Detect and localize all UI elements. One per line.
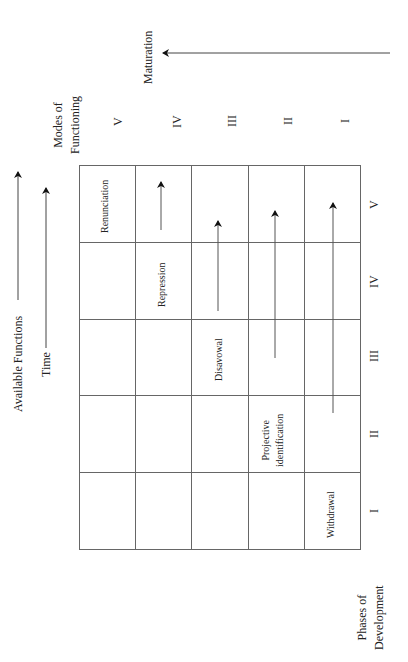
mode-label-ii: II — [282, 117, 294, 125]
mode-label-iv: IV — [171, 115, 183, 128]
developmental-diagram: Available Functions Time Maturation Mode… — [0, 0, 408, 662]
mode-label-v: V — [112, 117, 124, 126]
modes-of-functioning-label: Modes of Functioning — [50, 96, 84, 154]
maturation-label: Maturation — [142, 31, 154, 84]
projective-line1: Projective — [259, 414, 273, 467]
mode-label-i: I — [339, 119, 351, 123]
time-label: Time — [40, 352, 52, 377]
cell-disavowal: Disavowal — [214, 338, 224, 381]
cell-renunciation: Renunciation — [100, 180, 110, 233]
phases-of-development-label: Phases of Development — [354, 585, 388, 650]
mode-label-iii: III — [226, 115, 238, 127]
modes-label-line1: Modes of — [50, 96, 67, 154]
phases-label-line1: Phases of — [354, 585, 371, 650]
cell-withdrawal: Withdrawal — [326, 491, 336, 538]
phase-label-iii: III — [368, 350, 380, 362]
cell-projective-identification: Projective identification — [259, 414, 287, 467]
projective-line2: identification — [273, 414, 287, 467]
phase-label-ii: II — [368, 430, 380, 438]
available-functions-label: Available Functions — [12, 316, 24, 412]
phase-label-i: I — [368, 509, 380, 513]
phase-label-iv: IV — [368, 275, 380, 288]
phase-label-v: V — [368, 200, 380, 209]
cell-repression: Repression — [157, 263, 167, 307]
modes-label-line2: Functioning — [67, 96, 84, 154]
phases-label-line2: Development — [371, 585, 388, 650]
